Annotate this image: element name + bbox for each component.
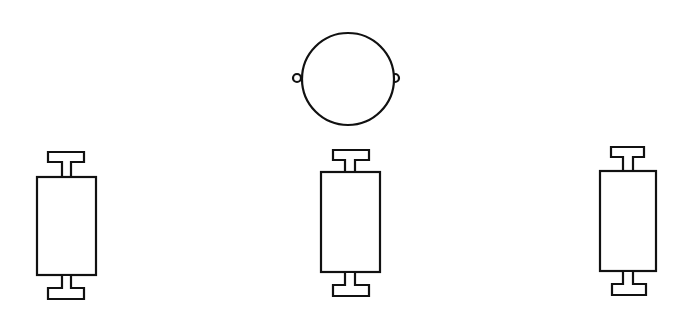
bottom-t-cap	[48, 275, 84, 299]
roller-body	[600, 171, 656, 271]
top-t-cap	[333, 150, 369, 172]
bottom-t-cap	[612, 271, 646, 295]
circle-node	[293, 33, 399, 125]
left-roller	[37, 152, 96, 299]
left-loop-icon	[293, 74, 301, 82]
circle-body	[302, 33, 394, 125]
top-t-cap	[48, 152, 84, 177]
top-t-cap	[611, 147, 644, 171]
right-roller	[600, 147, 656, 295]
roller-body	[37, 177, 96, 275]
diagram-canvas	[0, 0, 694, 324]
roller-body	[321, 172, 380, 272]
bottom-t-cap	[333, 272, 369, 296]
middle-roller	[321, 150, 380, 296]
